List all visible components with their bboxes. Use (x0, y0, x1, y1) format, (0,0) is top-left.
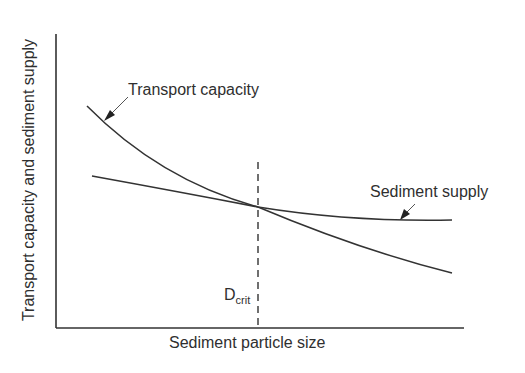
dcrit-sub: crit (236, 294, 251, 306)
y-axis-label: Transport capacity and sediment supply (20, 39, 38, 321)
transport-capacity-label: Transport capacity (128, 81, 259, 99)
transport-arrow-line (112, 97, 128, 113)
x-axis-label: Sediment particle size (169, 334, 326, 352)
supply-arrow-line (406, 204, 415, 213)
sediment-supply-label: Sediment supply (370, 183, 488, 201)
dcrit-label: Dcrit (224, 286, 250, 306)
dcrit-main: D (224, 286, 236, 303)
